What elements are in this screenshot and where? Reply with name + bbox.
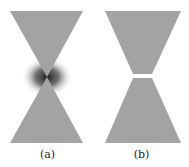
panel-b: (b) xyxy=(94,0,189,167)
bowtie-touching-diagram xyxy=(0,0,95,167)
upper-cone xyxy=(10,11,83,77)
caption-b: (b) xyxy=(94,148,189,161)
caption-a: (a) xyxy=(0,148,95,161)
upper-truncated-cone xyxy=(105,11,181,74)
lower-cone xyxy=(10,77,83,143)
bowtie-gap-diagram xyxy=(94,0,189,167)
panel-a: (a) xyxy=(0,0,95,167)
lower-truncated-cone xyxy=(105,78,181,143)
